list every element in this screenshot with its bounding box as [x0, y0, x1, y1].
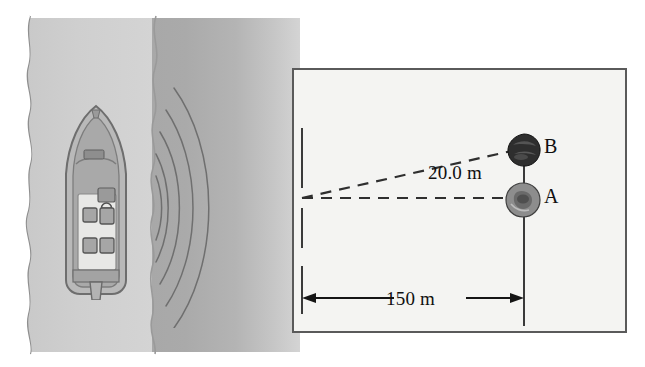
label-vertical-separation: 20.0 m [428, 162, 482, 184]
label-horizontal-distance: 150 m [386, 288, 435, 310]
seat-front-left [83, 208, 97, 222]
nameplate [84, 150, 104, 159]
wavefront-3 [160, 132, 179, 284]
figure-root: B A 20.0 m 150 m [0, 0, 645, 367]
transom [73, 270, 119, 282]
seat-rear-left [83, 238, 97, 253]
wavefront-1 [156, 176, 162, 240]
sonar-wavefronts [150, 58, 300, 328]
boat [56, 104, 136, 300]
water-scene [0, 0, 300, 367]
helm-console [98, 188, 115, 202]
bow-cleat-icon [92, 110, 100, 118]
label-rock-b: B [544, 135, 558, 158]
rock-a [505, 182, 541, 218]
measurement-panel [292, 68, 627, 333]
sight-line-to-b [302, 150, 516, 198]
arrowhead-left [302, 293, 316, 303]
panel-graphics [294, 70, 625, 331]
label-rock-a: A [544, 185, 559, 208]
seat-rear-right [100, 238, 114, 253]
arrowhead-right [510, 293, 524, 303]
outboard-motor [90, 282, 102, 300]
seat-front-right [100, 208, 114, 224]
rock-b [507, 133, 541, 167]
